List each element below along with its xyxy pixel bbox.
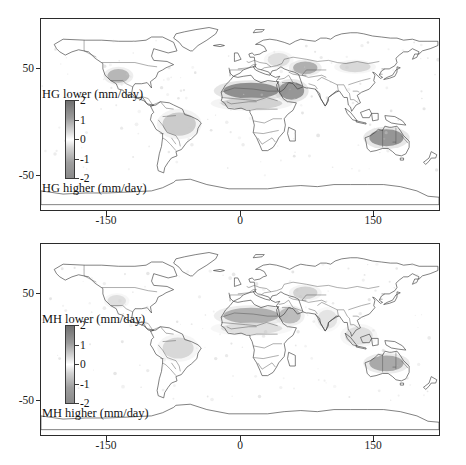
grid-cell-speck — [436, 58, 439, 62]
grid-cell-speck — [291, 270, 294, 273]
country-border — [284, 282, 293, 284]
coastline-newguinea — [385, 341, 406, 351]
grid-cell-speck — [264, 330, 268, 334]
country-border — [166, 365, 170, 369]
grid-cell-speck — [390, 110, 393, 113]
grid-cell-speck — [311, 95, 313, 97]
country-border — [273, 130, 279, 131]
grid-cell-speck — [357, 343, 358, 344]
grid-cell-speck — [316, 134, 320, 138]
grid-cell-speck — [210, 129, 213, 132]
country-border — [357, 316, 359, 317]
grid-cell-speck — [415, 274, 418, 277]
grid-cell-speck — [106, 74, 108, 76]
grid-cell-speck — [392, 69, 394, 71]
grid-cell-speck — [44, 150, 47, 153]
grid-cell-speck — [420, 58, 421, 59]
grid-cell-speck — [204, 347, 205, 348]
grid-cell-speck — [332, 302, 334, 304]
grid-cell-speck — [260, 161, 262, 163]
grid-cell-speck — [230, 131, 232, 133]
grid-cell-speck — [409, 384, 411, 386]
coastline-uk — [234, 278, 241, 287]
grid-cell-speck — [383, 138, 385, 140]
colorbar-title-bottom-lower: MH higher (mm/day) — [42, 406, 149, 421]
anomaly-region — [223, 308, 278, 324]
grid-cell-speck — [163, 79, 164, 80]
country-border — [348, 308, 355, 310]
grid-cell-speck — [427, 390, 429, 392]
grid-cell-speck — [402, 49, 404, 51]
grid-cell-speck — [304, 66, 306, 68]
ytick-bottom-0 — [36, 293, 41, 294]
grid-cell-speck — [205, 314, 207, 316]
grid-cell-speck — [301, 112, 304, 115]
grid-cell-speck — [310, 357, 313, 360]
country-border — [148, 291, 157, 292]
grid-cell-speck — [231, 396, 233, 398]
grid-cell-speck — [137, 133, 139, 135]
grid-cell-speck — [128, 168, 130, 170]
country-border — [368, 286, 379, 288]
grid-cell-speck — [289, 89, 290, 90]
grid-cell-speck — [162, 358, 166, 362]
grid-cell-speck — [262, 334, 265, 337]
grid-cell-speck — [180, 77, 181, 78]
grid-cell-speck — [58, 357, 61, 360]
country-border — [337, 85, 338, 91]
grid-cell-speck — [187, 138, 190, 141]
country-border — [148, 66, 157, 67]
ytick-bottom-1 — [36, 400, 41, 401]
grid-cell-speck — [413, 42, 415, 44]
grid-cell-speck — [388, 355, 389, 356]
grid-cell-speck — [260, 93, 263, 96]
coastline-iceland — [213, 269, 224, 271]
xtick-label-top-1: 0 — [237, 214, 243, 226]
grid-cell-speck — [58, 126, 60, 128]
ytick-label-top-0: 50 — [6, 62, 34, 74]
country-border — [337, 288, 346, 289]
country-border — [328, 60, 337, 62]
grid-cell-speck — [166, 116, 168, 118]
country-border — [328, 285, 337, 287]
grid-cell-speck — [294, 152, 295, 153]
cbar-bottom-label-2: 0 — [80, 358, 86, 370]
grid-cell-speck — [347, 88, 350, 91]
grid-cell-speck — [348, 396, 350, 398]
grid-cell-speck — [120, 83, 122, 85]
grid-cell-speck — [329, 268, 330, 269]
grid-cell-speck — [323, 380, 325, 382]
grid-cell-speck — [103, 79, 105, 81]
grid-cell-speck — [417, 327, 418, 328]
country-border — [293, 57, 306, 59]
grid-cell-speck — [435, 168, 438, 171]
grid-cell-speck — [255, 282, 259, 286]
grid-cell-speck — [125, 304, 126, 305]
country-border — [317, 77, 321, 80]
cbar-bottom-tick-1 — [75, 345, 79, 346]
country-border — [322, 302, 329, 305]
grid-cell-speck — [219, 333, 221, 335]
ytick-top-0 — [36, 68, 41, 69]
grid-cell-speck — [100, 108, 102, 110]
grid-cell-speck — [389, 281, 391, 283]
grid-cell-speck — [214, 357, 217, 360]
country-border — [179, 366, 180, 371]
grid-cell-speck — [427, 336, 431, 340]
country-border — [264, 292, 271, 293]
country-border — [253, 346, 264, 348]
xtick-label-top-0: -150 — [95, 214, 116, 226]
country-border — [349, 93, 350, 99]
country-border — [362, 303, 371, 305]
grid-cell-speck — [372, 329, 374, 331]
grid-cell-speck — [180, 90, 183, 93]
grid-cell-speck — [166, 77, 170, 81]
country-border — [347, 316, 349, 318]
country-border — [249, 285, 254, 287]
grid-cell-speck — [228, 276, 232, 280]
grid-cell-speck — [279, 70, 282, 73]
country-border — [315, 300, 322, 301]
grid-cell-speck — [369, 124, 371, 126]
grid-cell-speck — [304, 345, 307, 348]
country-border — [247, 61, 249, 62]
